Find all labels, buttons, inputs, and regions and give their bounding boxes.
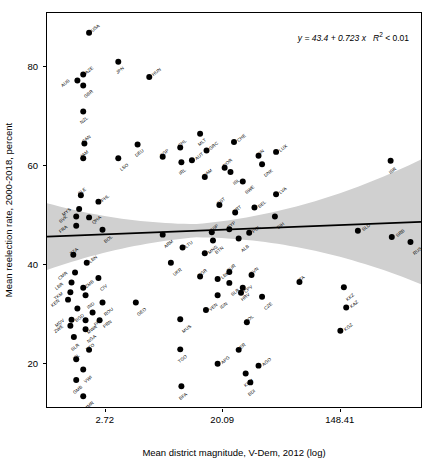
point-label: PER (236, 342, 247, 352)
point-label: TZA (69, 247, 79, 256)
point-label: ITA (297, 275, 306, 283)
point-label: ARM (163, 238, 174, 248)
point-label: CIV (99, 283, 108, 292)
point-label: LBN (219, 271, 229, 281)
point-label: SVN (249, 266, 260, 276)
point-label: APG (219, 355, 230, 365)
point-label: CMR (57, 270, 69, 281)
point-label: NZL (79, 116, 89, 125)
point-label: KEN (50, 298, 61, 308)
x-tick-mark (340, 409, 341, 412)
point-label: GMB (72, 384, 84, 395)
point-label: AUS (60, 78, 71, 88)
point-label: GEO (136, 307, 147, 317)
point-label: AUT (194, 151, 205, 161)
point-label: SGP (159, 147, 170, 157)
point-label: SLR (70, 342, 80, 352)
point-label: SLD (361, 222, 371, 232)
point-label: MLT (197, 138, 207, 148)
point-label: BDI (247, 388, 256, 397)
point-label: USA (90, 23, 101, 33)
point-label: RUS (412, 246, 422, 256)
point-label: DEU (134, 148, 145, 158)
point-label: UKR (171, 267, 182, 277)
chart-figure: USAJPNAZEHUNAUSGBRNZLMLTCHECANDEUCHLGRCL… (0, 0, 436, 470)
point-label: DNK (263, 168, 274, 178)
x-tick-label: 148.41 (325, 414, 354, 425)
point-label: ISL (231, 178, 240, 186)
point-label: CAN (81, 134, 92, 144)
point-label: BGD (74, 313, 85, 323)
point-label: BGR (197, 268, 208, 278)
point-label: PHL (100, 193, 110, 203)
x-tick-label: 2.72 (96, 414, 115, 425)
point-label: BOL (103, 234, 114, 244)
point-label: ISL (72, 353, 81, 361)
x-axis-label: Mean district magnitude, V-Dem, 2012 (lo… (46, 447, 422, 458)
point-label: LSO (119, 162, 130, 172)
point-label: LBR (54, 281, 64, 291)
point-label: LUX (278, 143, 288, 153)
point-label: PRN (102, 319, 113, 329)
point-label: BFA (178, 392, 188, 401)
point-label: LBN (88, 254, 98, 264)
point-label: CZE (263, 301, 274, 311)
point-label: ISR (388, 166, 397, 175)
point-label: CHE (236, 133, 247, 143)
point-label: KHM (243, 378, 254, 388)
fit-equation: y = 43.4 + 0.723 x (298, 33, 366, 43)
point-label: KGZ (343, 322, 354, 332)
y-tick-mark (43, 363, 46, 364)
point-label: VWI (83, 375, 93, 384)
y-axis-label-text: Mean reelection rate, 2000-2018, percent (3, 123, 14, 297)
y-axis-label: Mean reelection rate, 2000-2018, percent (0, 12, 16, 408)
x-tick-label: 20.09 (210, 414, 234, 425)
point-label: FIN (256, 148, 265, 157)
x-tick-mark (105, 409, 106, 412)
plot-panel: USAJPNAZEHUNAUSGBRNZLMLTCHECANDEUCHLGRCL… (46, 12, 422, 408)
fit-annotation: y = 43.4 + 0.723 x R2 < 0.01 (298, 31, 409, 43)
x-tick-mark (222, 409, 223, 412)
x-axis-label-text: Mean district magnitude, V-Dem, 2012 (lo… (142, 447, 325, 458)
point-label: QHA (91, 215, 102, 225)
point-label: TGO (177, 354, 188, 364)
point-label: MWA (86, 324, 98, 335)
point-label: SLR (230, 288, 240, 298)
point-label: EST (216, 196, 226, 206)
point-label: MUS (181, 323, 192, 333)
point-label: LTU (184, 239, 194, 248)
point-label: GBR (83, 89, 94, 99)
point-label: JPN (115, 66, 125, 75)
point-label: GRC (208, 141, 219, 151)
point-label: MMR (83, 400, 95, 408)
point-label: BEL (257, 199, 267, 208)
point-label: ALB (240, 243, 250, 252)
point-label: CHL (177, 138, 188, 148)
point-label: ROU (103, 307, 114, 317)
point-label: JAM (79, 149, 90, 159)
point-label: TTO (85, 342, 95, 352)
point-label: BIH (276, 222, 285, 231)
point-label: SVK (58, 215, 69, 225)
point-label: KAZ (349, 299, 359, 309)
y-tick-mark (43, 66, 46, 67)
point-label: NAM (202, 167, 213, 177)
point-label: COL (244, 314, 255, 324)
point-label: IRL (178, 167, 187, 176)
point-label: NOR (222, 158, 233, 168)
point-label: SRB (395, 228, 406, 238)
y-tick-mark (43, 264, 46, 265)
point-label: ESP (209, 224, 220, 234)
point-label: POL (251, 224, 262, 234)
y-tick-mark (43, 165, 46, 166)
point-label: HUN (151, 67, 162, 77)
point-label: IND (86, 301, 96, 310)
point-label: AGO (261, 357, 272, 367)
r-squared-value: < 0.01 (383, 33, 409, 43)
point-label: ZMB (84, 279, 95, 289)
point-label: IDN (218, 301, 228, 310)
point-label: AZE (84, 65, 94, 75)
point-label: SLE (77, 187, 87, 196)
point-label: SWE (244, 185, 256, 196)
point-label: LVA (278, 186, 288, 195)
